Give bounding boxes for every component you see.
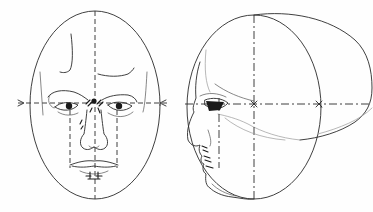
cheek-arc-guide	[225, 118, 285, 140]
forehead-line-right	[98, 68, 134, 76]
brow-arc	[215, 84, 254, 101]
profile-eye-shading	[206, 101, 224, 111]
nose-shading	[80, 120, 83, 129]
neck-back-guide	[318, 108, 372, 134]
face-profile-outline	[187, 62, 254, 199]
right-lower-lid	[108, 112, 133, 117]
right-temple-line	[143, 72, 147, 112]
chin-shading	[86, 172, 102, 179]
sketch-drawing	[0, 0, 373, 212]
upper-lip	[70, 161, 118, 165]
profile-view-head	[185, 14, 372, 200]
nostrils	[89, 146, 99, 148]
forehead-arc-guide	[205, 50, 210, 92]
front-view-head	[18, 11, 168, 199]
left-pupil	[66, 103, 72, 109]
mouth-line	[72, 166, 116, 167]
jaw-sweep-guide	[218, 114, 300, 140]
profile-brow	[200, 93, 226, 97]
head-proportions-sketch	[0, 0, 373, 212]
lower-lip	[80, 171, 108, 174]
forehead-line-left	[60, 34, 72, 73]
right-eyebrow	[102, 95, 137, 102]
nasolabial-line	[208, 130, 211, 146]
left-temple-line	[40, 72, 43, 115]
nasion-mark	[91, 98, 96, 103]
left-lower-lid	[58, 112, 78, 115]
left-eyebrow	[48, 91, 88, 100]
back-of-skull	[254, 14, 372, 140]
right-pupil	[116, 103, 122, 109]
left-brow-ridge	[49, 95, 54, 108]
nose	[80, 110, 107, 150]
